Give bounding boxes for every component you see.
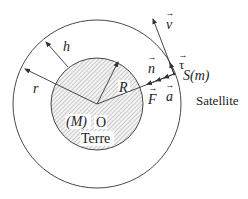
satellite-name-label: Satellite (196, 94, 239, 107)
satellite-point-label: S(m) (183, 69, 209, 83)
r-label: r (33, 82, 38, 96)
v-symbol: v (166, 18, 172, 32)
center-label: O (96, 116, 106, 130)
F-symbol: F (148, 93, 157, 107)
earth-name-label: Terre (81, 132, 110, 146)
a-symbol: a (166, 90, 173, 104)
n-vector (164, 74, 174, 78)
a-vector (156, 78, 164, 81)
n-symbol: n (148, 62, 155, 76)
earth-mass-label: (M) (66, 115, 87, 129)
h-label: h (63, 40, 70, 54)
R-label: R (119, 81, 128, 95)
satellite-point (173, 73, 175, 75)
